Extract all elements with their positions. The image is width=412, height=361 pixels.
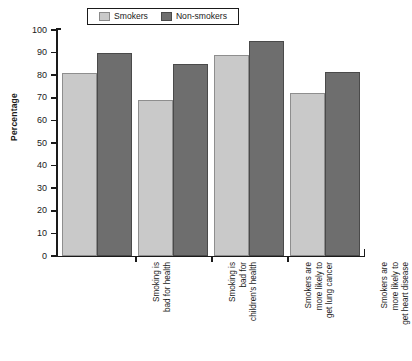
y-tick-30 [51, 187, 56, 189]
y-tick-label-20: 20 [7, 206, 47, 215]
y-tick-60 [51, 120, 56, 122]
y-tick-10 [51, 233, 56, 235]
category-label-3: Smokers are more likely to get lung canc… [304, 262, 336, 361]
bar-nonsmokers-group1 [97, 53, 132, 256]
bar-smokers-group3 [214, 55, 249, 256]
y-tick-50 [51, 142, 56, 144]
y-tick-label-10: 10 [7, 229, 47, 238]
y-tick-40 [51, 165, 56, 167]
category-label-1: Smoking is bad for health [152, 262, 173, 361]
legend-item-smokers: Smokers [95, 12, 152, 21]
bar-nonsmokers-group4 [325, 72, 360, 256]
bar-smokers-group2 [138, 100, 173, 256]
legend-label-smokers: Smokers [114, 12, 148, 21]
y-tick-label-30: 30 [7, 184, 47, 193]
category-label-2: Smoking is bad for children's health [228, 262, 260, 361]
bar-nonsmokers-group3 [249, 41, 284, 256]
x-axis-right-cap [364, 249, 366, 256]
x-group-tick-1 [135, 256, 137, 262]
y-tick-0 [51, 255, 56, 257]
y-tick-label-40: 40 [7, 161, 47, 170]
legend-item-nonsmokers: Non-smokers [157, 12, 231, 21]
category-label-4: Smokers are more likely to get heart dis… [380, 262, 412, 361]
y-tick-label-0: 0 [7, 252, 47, 261]
bar-nonsmokers-group2 [173, 64, 208, 256]
bar-smokers-group4 [290, 93, 325, 256]
y-tick-label-80: 80 [7, 71, 47, 80]
legend-swatch-nonsmokers-icon [161, 12, 172, 21]
y-axis-line [56, 28, 58, 257]
y-tick-100 [51, 29, 56, 31]
x-group-tick-2 [211, 256, 213, 262]
y-tick-label-50: 50 [7, 139, 47, 148]
legend-swatch-smokers-icon [99, 12, 110, 21]
y-tick-label-100: 100 [7, 26, 47, 35]
y-tick-label-70: 70 [7, 93, 47, 102]
legend-label-nonsmokers: Non-smokers [176, 12, 227, 21]
chart-legend: Smokers Non-smokers [87, 8, 239, 25]
y-tick-90 [51, 52, 56, 54]
y-tick-20 [51, 210, 56, 212]
y-tick-70 [51, 97, 56, 99]
bar-smokers-group1 [62, 73, 97, 256]
y-tick-label-60: 60 [7, 116, 47, 125]
y-tick-80 [51, 74, 56, 76]
y-tick-label-90: 90 [7, 48, 47, 57]
x-group-tick-3 [287, 256, 289, 262]
